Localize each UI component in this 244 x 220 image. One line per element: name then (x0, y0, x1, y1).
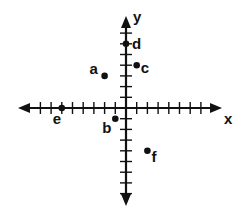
x-axis-label: x (224, 110, 233, 127)
x-axis (18, 103, 222, 113)
point-label: a (90, 60, 99, 77)
x-axis-left-arrow-icon (18, 103, 30, 113)
point-label: b (102, 119, 111, 136)
point-label: d (132, 35, 141, 52)
point-b: b (102, 115, 118, 135)
y-axis-label: y (133, 8, 142, 25)
point-label: f (151, 148, 157, 165)
point-label: c (141, 59, 149, 76)
point-f: f (144, 148, 157, 165)
coordinate-plane: x y abcdef (0, 0, 244, 220)
point-dot (144, 148, 151, 155)
y-axis-up-arrow-icon (121, 16, 131, 28)
plotted-points: abcdef (53, 35, 158, 165)
point-dot (133, 62, 140, 69)
point-dot (101, 73, 108, 80)
y-axis-down-arrow-icon (121, 194, 131, 206)
point-dot (123, 41, 130, 48)
point-a: a (90, 60, 108, 79)
x-axis-right-arrow-icon (210, 103, 222, 113)
point-dot (112, 115, 119, 122)
point-label: e (53, 110, 61, 127)
point-c: c (133, 59, 149, 76)
